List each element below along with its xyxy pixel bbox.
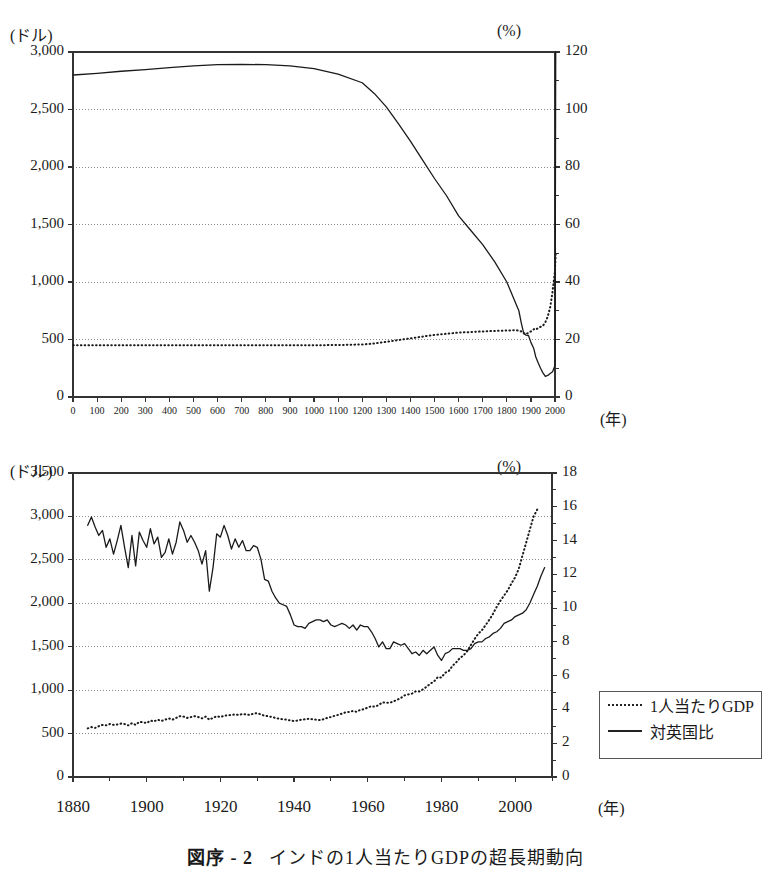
- y-axis-left-tick-label: 1,000: [0, 272, 64, 289]
- y-axis-left-tick-label: 1,500: [0, 215, 64, 232]
- legend: 1人当たりGDP 対英国比: [599, 691, 762, 759]
- y-axis-right-tick-label: 4: [562, 699, 570, 716]
- y-axis-left-tick-label: 3,000: [0, 42, 64, 59]
- x-axis-tick-label: 1900: [112, 797, 182, 817]
- y-axis-right-tick-label: 10: [562, 598, 577, 615]
- top-x-axis-unit: (年): [600, 406, 627, 430]
- y-axis-right-tick-label: 0: [565, 387, 573, 404]
- chart-top-canvas: [0, 0, 771, 440]
- chart-top-panel: (ドル) (%) (年) 05001,0001,5002,0002,5003,0…: [0, 0, 771, 440]
- y-axis-left-tick-label: 0: [0, 387, 64, 404]
- y-axis-right-tick-label: 6: [562, 666, 570, 683]
- x-axis-tick-label: 2000: [520, 405, 590, 416]
- series-line-0: [73, 52, 555, 376]
- x-axis-tick-label: 1880: [38, 797, 108, 817]
- chart-bottom-canvas: [0, 440, 771, 840]
- legend-item-ratio: 対英国比: [600, 718, 761, 744]
- legend-dotted-line-icon: [608, 699, 642, 711]
- x-axis-tick-label: 1980: [406, 797, 476, 817]
- figure-root: (ドル) (%) (年) 05001,0001,5002,0002,5003,0…: [0, 0, 771, 880]
- caption-number: 図序 - 2: [187, 848, 253, 868]
- x-axis-tick-label: 2000: [480, 797, 550, 817]
- y-axis-right-tick-label: 20: [565, 330, 580, 347]
- y-axis-left-tick-label: 2,500: [0, 100, 64, 117]
- figure-caption: 図序 - 2インドの1人当たりGDPの超長期動向: [0, 843, 771, 869]
- y-axis-left-tick-label: 500: [0, 724, 64, 741]
- y-axis-right-tick-label: 2: [562, 733, 570, 750]
- caption-text: インドの1人当たりGDPの超長期動向: [269, 848, 584, 868]
- series-line-1: [73, 253, 555, 345]
- series-line-0: [88, 517, 545, 661]
- y-axis-left-tick-label: 2,000: [0, 157, 64, 174]
- x-axis-tick-label: 1940: [259, 797, 329, 817]
- legend-item-label: 1人当たりGDP: [650, 693, 754, 717]
- y-axis-left-tick-label: 2,500: [0, 550, 64, 567]
- y-axis-right-tick-label: 100: [565, 100, 588, 117]
- y-axis-right-tick-label: 16: [562, 497, 577, 514]
- y-axis-left-tick-label: 1,000: [0, 680, 64, 697]
- chart-bottom-panel: (ドル) (%) (年) 1人当たりGDP 対英国比 05001,0001,50…: [0, 440, 771, 840]
- y-axis-left-tick-label: 3,500: [0, 463, 64, 480]
- y-axis-left-tick-label: 2,000: [0, 593, 64, 610]
- legend-item-gdp: 1人当たりGDP: [600, 692, 761, 718]
- bottom-x-axis-unit: (年): [598, 795, 625, 819]
- y-axis-right-tick-label: 18: [562, 463, 577, 480]
- y-axis-right-tick-label: 12: [562, 564, 577, 581]
- x-axis-tick-label: 1920: [185, 797, 255, 817]
- y-axis-left-tick-label: 3,000: [0, 506, 64, 523]
- y-axis-right-tick-label: 80: [565, 157, 580, 174]
- legend-item-label: 対英国比: [650, 719, 714, 743]
- legend-solid-line-icon: [608, 725, 642, 737]
- y-axis-left-tick-label: 1,500: [0, 637, 64, 654]
- x-axis-tick-label: 1960: [333, 797, 403, 817]
- y-axis-right-tick-label: 40: [565, 272, 580, 289]
- y-axis-right-tick-label: 0: [562, 767, 570, 784]
- y-axis-left-tick-label: 500: [0, 330, 64, 347]
- y-axis-right-tick-label: 60: [565, 215, 580, 232]
- y-axis-right-tick-label: 8: [562, 632, 570, 649]
- y-axis-left-tick-label: 0: [0, 767, 64, 784]
- y-axis-right-tick-label: 14: [562, 531, 577, 548]
- y-axis-right-tick-label: 120: [565, 42, 588, 59]
